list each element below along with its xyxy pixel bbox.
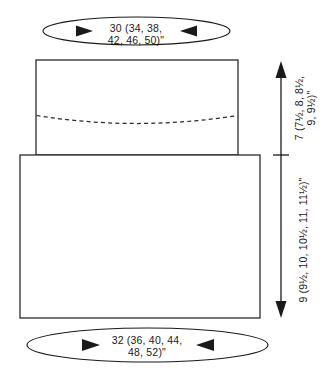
upper-height-label-line1: 7 (7½, 8, 8½, [293,76,305,140]
lower-body-panel [20,155,260,318]
top-width-label-line1: 30 (34, 38, [110,22,162,34]
bottom-right-arrowhead [196,339,214,351]
upper-body-panel [36,60,238,155]
bottom-width-label-line1: 32 (36, 40, 44, [112,334,183,346]
vertical-bottom-arrowhead [276,301,287,318]
top-left-arrowhead [76,26,93,37]
garment-schematic-diagram: 30 (34, 38, 42, 46, 50)" 32 (36, 40, 44,… [0,0,335,382]
top-right-arrowhead [180,26,197,37]
schematic-canvas: 30 (34, 38, 42, 46, 50)" 32 (36, 40, 44,… [0,0,335,382]
bottom-left-arrowhead [82,339,100,351]
top-width-label-line2: 42, 46, 50)" [108,34,164,46]
vertical-top-arrowhead [276,61,287,78]
vertical-height-dimension [273,61,289,318]
upper-height-label-line2: 9, 9½)" [305,90,317,125]
bottom-width-label-line2: 48, 52)" [128,346,166,358]
lower-height-label: 9 (9½, 10, 10½, 11, 11½)" [297,177,309,302]
